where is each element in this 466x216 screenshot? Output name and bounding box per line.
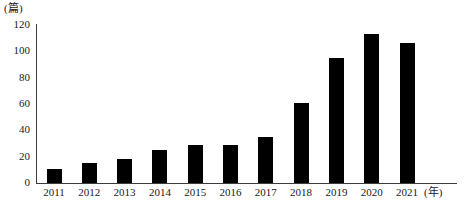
bar-chart-figure: (篇) 020406080100120 20112012201320142015…: [0, 0, 466, 216]
y-axis-tick: 80: [0, 72, 30, 83]
y-axis-tick-label: 120: [4, 19, 30, 30]
y-axis-tick: 100: [0, 45, 30, 56]
bar: [364, 34, 379, 183]
bar: [294, 103, 309, 183]
y-axis-tick: 20: [0, 151, 30, 162]
y-axis-tick-label: 0: [4, 177, 30, 188]
bar: [400, 43, 415, 183]
bar: [223, 145, 238, 183]
y-axis-tick: 0: [0, 177, 30, 188]
y-axis-tick-label: 80: [4, 72, 30, 83]
y-axis-tick: 40: [0, 124, 30, 135]
bar: [117, 159, 132, 183]
bar: [188, 145, 203, 183]
x-axis-unit-label: (年): [424, 186, 442, 199]
y-axis-tick-label: 60: [4, 98, 30, 109]
bar: [82, 163, 97, 183]
y-axis-tick: 60: [0, 98, 30, 109]
bar: [152, 150, 167, 183]
bar: [258, 137, 273, 183]
y-axis-tick-label: 20: [4, 151, 30, 162]
plot-area: 020406080100120 201120122013201420152016…: [0, 0, 466, 216]
y-axis-tick-label: 40: [4, 124, 30, 135]
y-axis-tick: 120: [0, 19, 30, 30]
x-axis-line: [36, 183, 457, 184]
bar: [329, 58, 344, 183]
bar: [47, 169, 62, 183]
y-axis-tick-label: 100: [4, 45, 30, 56]
y-axis-line: [36, 24, 37, 184]
